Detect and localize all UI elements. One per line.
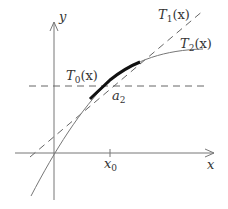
t1-line [30,10,204,157]
t1-label: T1(x) [158,7,190,24]
t2-label: T2(x) [180,36,212,53]
y-axis-label: y [58,9,67,24]
x-axis-label: x [207,157,215,172]
t0-label: T0(x) [66,68,98,85]
x0-label: x0 [104,156,117,173]
t2-curve [31,49,203,196]
a2-label: a2 [112,88,126,105]
taylor-diagram: y x x0 T0(x) T1(x) T2(x) a2 [0,0,228,209]
